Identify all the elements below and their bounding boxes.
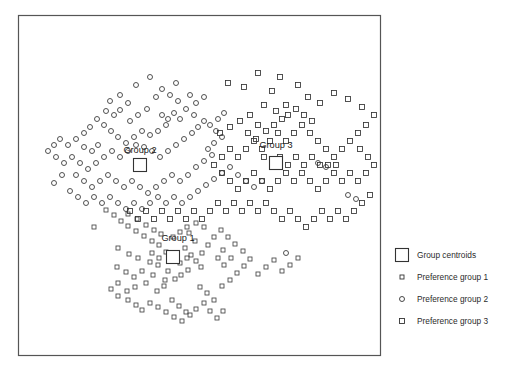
centroid-marker	[270, 157, 283, 170]
legend-label-pref1: Preference group 1	[417, 272, 488, 282]
legend-label-centroids: Group centroids	[417, 250, 476, 260]
legend-item-centroids: Group centroids	[396, 249, 477, 262]
centroid-label: Group 1	[161, 233, 194, 243]
legend-marker-centroids	[396, 249, 409, 262]
legend-label-pref2: Preference group 2	[417, 294, 488, 304]
figure-background	[0, 0, 519, 370]
scatter-plot-figure: Group 2Group 3Group 1 Group centroidsPre…	[0, 0, 519, 370]
legend-label-pref3: Preference group 3	[417, 316, 488, 326]
centroid-marker	[167, 251, 180, 264]
centroid-marker	[134, 159, 147, 172]
centroid-label: Group 2	[123, 145, 156, 155]
centroid-label: Group 3	[259, 140, 292, 150]
